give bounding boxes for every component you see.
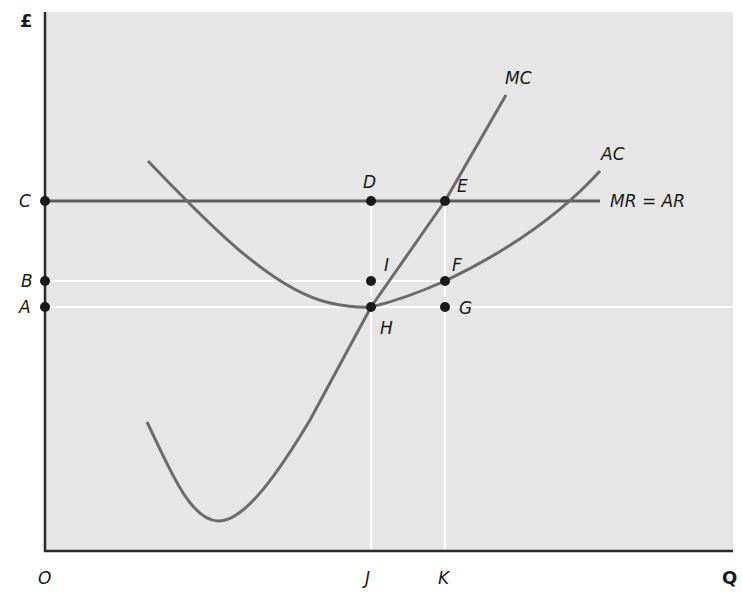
mr-ar-label: MR = AR [610, 191, 685, 211]
label-j: J [362, 568, 370, 588]
label-k: K [438, 568, 451, 588]
dot-a [40, 302, 50, 312]
ac-label: AC [600, 144, 625, 164]
label-g: G [459, 298, 472, 318]
label-e: E [457, 176, 468, 196]
origin-label: O [38, 568, 51, 588]
dot-f [440, 276, 450, 286]
x-axis-label: Q [722, 567, 737, 588]
label-i: I [384, 255, 389, 275]
label-a: A [18, 297, 31, 317]
label-d: D [363, 172, 376, 192]
label-f: F [452, 255, 462, 275]
dot-g [440, 302, 450, 312]
label-b: B [21, 271, 33, 291]
dot-d [366, 196, 376, 206]
dot-i [366, 276, 376, 286]
dot-e [440, 196, 450, 206]
dot-c [40, 196, 50, 206]
dot-b [40, 276, 50, 286]
mc-label: MC [505, 68, 532, 88]
cost-revenue-diagram: £ Q O C B A J K D E I F G H MC AC MR = A… [0, 0, 742, 594]
y-axis-label: £ [20, 10, 33, 31]
label-c: C [19, 191, 31, 211]
label-h: H [380, 318, 393, 338]
dot-h [366, 302, 376, 312]
